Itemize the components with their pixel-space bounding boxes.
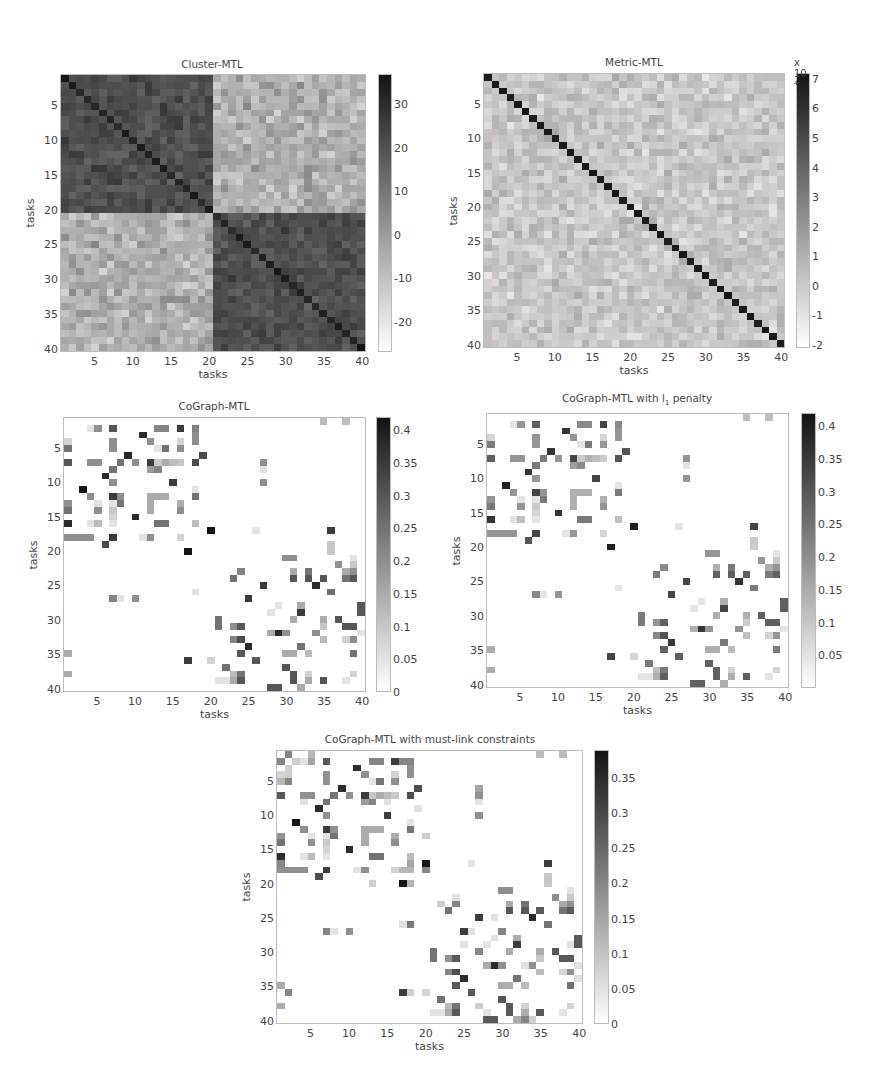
x-tick-label: 30	[279, 356, 293, 367]
colorbar-tick-label: 3	[812, 192, 819, 203]
x-tick-label: 10	[548, 352, 562, 363]
y-tick-label: 30	[467, 270, 481, 281]
colorbar-tick-label: 0.1	[818, 617, 836, 628]
x-tick-label: 25	[242, 696, 256, 707]
colorbar-tick-label: 1	[812, 251, 819, 262]
x-tick-label: 15	[589, 692, 603, 703]
x-tick-label: 30	[279, 696, 293, 707]
x-tick-label: 5	[94, 696, 101, 707]
x-tick-label: 35	[317, 356, 331, 367]
x-axis-label: tasks	[200, 708, 229, 721]
x-tick-label: 35	[317, 696, 331, 707]
heatmap-plot-area	[276, 750, 583, 1024]
y-tick-label: 30	[470, 610, 484, 621]
heatmap-canvas	[484, 74, 784, 347]
y-tick-label: 20	[470, 542, 484, 553]
x-tick-label: 5	[517, 692, 524, 703]
y-tick-label: 5	[474, 98, 481, 109]
multiplier-exponent: 4	[794, 79, 798, 86]
colorbar-gradient	[595, 751, 608, 1023]
y-tick-label: 5	[267, 775, 274, 786]
colorbar	[378, 74, 392, 352]
x-tick-label: 25	[457, 1028, 471, 1039]
x-axis-label: tasks	[199, 368, 228, 381]
colorbar-tick-label: 0.4	[393, 425, 411, 436]
colorbar-tick-label: 0.1	[611, 948, 629, 959]
chart-title: CoGraph-MTL with l1 penalty	[562, 392, 712, 407]
chart-title-text: Cluster-MTL	[181, 58, 243, 70]
colorbar-tick-label: 6	[812, 103, 819, 114]
colorbar-tick-label: 20	[394, 142, 408, 153]
x-tick-label: 20	[204, 696, 218, 707]
y-tick-label: 25	[467, 236, 481, 247]
colorbar-tick-label: -20	[394, 316, 412, 327]
colorbar-tick-label: 0.25	[818, 519, 843, 530]
colorbar-tick-label: 10	[394, 186, 408, 197]
y-axis-label: tasks	[240, 873, 253, 902]
x-tick-label: 35	[736, 352, 750, 363]
y-tick-label: 10	[470, 473, 484, 484]
x-tick-label: 20	[202, 356, 216, 367]
x-tick-label: 15	[166, 696, 180, 707]
y-tick-label: 25	[47, 580, 61, 591]
colorbar-tick-label: 0.1	[393, 621, 411, 632]
chart-title-text: CoGraph-MTL with must-link constraints	[325, 733, 536, 745]
x-tick-label: 40	[572, 1028, 586, 1039]
heatmap-plot-area	[483, 73, 785, 348]
colorbar-tick-label: 0.2	[611, 878, 629, 889]
x-tick-label: 15	[380, 1028, 394, 1039]
heatmap-canvas	[61, 75, 365, 351]
chart-title: CoGraph-MTL with must-link constraints	[325, 733, 536, 745]
y-tick-label: 20	[44, 204, 58, 215]
x-tick-label: 25	[661, 352, 675, 363]
y-tick-label: 5	[54, 442, 61, 453]
colorbar	[796, 73, 810, 348]
y-axis-label: tasks	[27, 540, 40, 569]
x-tick-label: 35	[534, 1028, 548, 1039]
colorbar	[801, 413, 816, 688]
colorbar-tick-label: 0.05	[611, 983, 636, 994]
colorbar-tick-label: 0.15	[611, 913, 636, 924]
x-tick-label: 20	[419, 1028, 433, 1039]
y-tick-label: 30	[44, 274, 58, 285]
heatmap-canvas	[487, 414, 788, 687]
colorbar	[376, 417, 391, 692]
y-tick-label: 35	[47, 649, 61, 660]
colorbar-tick-label: 0.05	[393, 654, 418, 665]
colorbar-tick-label: 0.2	[393, 556, 411, 567]
y-tick-label: 40	[260, 1015, 274, 1026]
colorbar-tick-label: 2	[812, 221, 819, 232]
x-tick-label: 5	[307, 1028, 314, 1039]
colorbar-tick-label: -1	[812, 310, 823, 321]
chart-title-suffix: penalty	[669, 392, 712, 404]
y-axis-label: tasks	[24, 199, 37, 228]
y-tick-label: 40	[47, 683, 61, 694]
y-axis-label: tasks	[447, 196, 460, 225]
heatmap-canvas	[277, 751, 582, 1023]
colorbar-tick-label: 0	[812, 280, 819, 291]
y-tick-label: 10	[47, 477, 61, 488]
y-tick-label: 25	[470, 576, 484, 587]
x-tick-label: 30	[495, 1028, 509, 1039]
y-tick-label: 20	[467, 202, 481, 213]
colorbar-tick-label: 0	[611, 1019, 618, 1030]
x-tick-label: 35	[740, 692, 754, 703]
colorbar-tick-label: 0.3	[611, 808, 629, 819]
y-tick-label: 20	[47, 546, 61, 557]
colorbar-tick-label: 0	[393, 687, 400, 698]
y-tick-label: 15	[47, 511, 61, 522]
colorbar	[594, 750, 609, 1024]
x-axis-label: tasks	[415, 1040, 444, 1053]
y-tick-label: 10	[44, 135, 58, 146]
colorbar-tick-label: 7	[812, 73, 819, 84]
heatmap-plot-area	[60, 74, 366, 352]
heatmap-plot-area	[486, 413, 789, 688]
multiplier-base: x 10	[794, 57, 807, 79]
y-tick-label: 40	[44, 343, 58, 354]
y-tick-label: 10	[260, 810, 274, 821]
y-tick-label: 15	[470, 507, 484, 518]
x-tick-label: 15	[585, 352, 599, 363]
y-tick-label: 35	[44, 308, 58, 319]
heatmap-canvas	[64, 418, 365, 691]
x-tick-label: 10	[342, 1028, 356, 1039]
